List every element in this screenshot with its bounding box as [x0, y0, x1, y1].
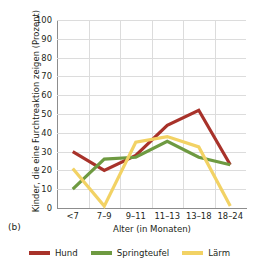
legend-swatch-icon [182, 251, 203, 254]
x-tick-label: 13–18 [186, 211, 212, 221]
y-tick-label: 0 [0, 203, 52, 213]
y-tick-label: 40 [0, 128, 52, 138]
y-tick-label: 10 [0, 184, 52, 194]
plot-area [57, 20, 246, 208]
y-tick-label: 60 [0, 90, 52, 100]
series-lines [57, 20, 246, 208]
legend-item-lärm[interactable]: Lärm [182, 248, 230, 258]
x-axis-line [57, 208, 247, 209]
y-tick-label: 30 [0, 147, 52, 157]
x-tick-label: 9–11 [126, 211, 146, 221]
series-line-lärm [73, 137, 231, 207]
chart-legend: HundSpringteufelLärm [0, 248, 259, 258]
y-tick-label: 90 [0, 34, 52, 44]
y-tick-label: 80 [0, 53, 52, 63]
x-tick-label: 11–13 [154, 211, 180, 221]
y-tick-label: 100 [0, 15, 52, 25]
y-tick-label: 70 [0, 71, 52, 81]
legend-label: Springteufel [117, 248, 170, 258]
figure-panel-b: Kinder, die eine Furchtreaktion zeigen (… [0, 0, 259, 265]
x-tick-label: 7–9 [97, 211, 112, 221]
y-tick-label: 20 [0, 165, 52, 175]
panel-label: (b) [8, 222, 21, 232]
legend-swatch-icon [29, 251, 50, 254]
y-tick-label: 50 [0, 109, 52, 119]
legend-item-hund[interactable]: Hund [29, 248, 78, 258]
x-axis-title: Alter (in Monaten) [57, 224, 247, 234]
x-tick-label: 18–24 [217, 211, 243, 221]
series-line-springteufel [73, 141, 231, 189]
legend-swatch-icon [91, 251, 112, 254]
x-tick-label: <7 [67, 211, 79, 221]
legend-label: Lärm [208, 248, 230, 258]
legend-item-springteufel[interactable]: Springteufel [91, 248, 170, 258]
legend-label: Hund [55, 248, 78, 258]
